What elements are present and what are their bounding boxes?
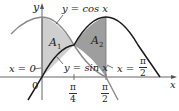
region-a2-label: A2: [91, 35, 103, 49]
boundary-x0-label: x = 0: [9, 64, 36, 74]
y-axis-label: y: [33, 2, 39, 13]
tick-label-pi-over-4: π 4: [69, 83, 77, 104]
plot-canvas: [0, 0, 179, 111]
y-axis-arrow-icon: [40, 3, 44, 9]
cos-curve-label: y = cos x: [62, 4, 108, 14]
cos-label-leader: [56, 15, 63, 24]
origin-label: 0: [32, 81, 38, 91]
tick-label-pi-over-2: π 2: [101, 83, 109, 104]
boundary-xpi2-label-fraction: π 2: [139, 57, 147, 78]
boundary-xpi2-label-prefix: x =: [117, 64, 134, 74]
area-between-curves-diagram: y x 0 y = cos x y = sin x A1 A2 x = 0 x …: [0, 0, 179, 111]
x-axis-label: x: [170, 80, 176, 90]
sin-curve-label: y = sin x: [64, 63, 108, 73]
region-a1-label: A1: [49, 37, 61, 51]
